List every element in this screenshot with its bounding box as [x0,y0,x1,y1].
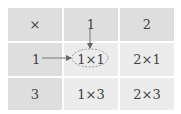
annotation-overlay [0,0,181,114]
highlight-ellipse-icon [72,49,108,67]
